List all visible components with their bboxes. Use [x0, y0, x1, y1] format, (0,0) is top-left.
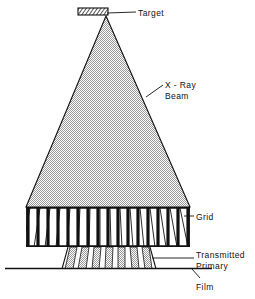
grid-assembly: [23, 207, 190, 247]
leader-xray: [146, 85, 163, 97]
label-grid: Grid: [196, 212, 214, 223]
label-transmitted-primary: Transmitted Primary: [196, 250, 245, 271]
label-film: Film: [196, 282, 214, 293]
x-ray-beam-shape: [26, 16, 190, 207]
label-xray-beam: X - Ray Beam: [165, 80, 196, 101]
target-block: [78, 8, 108, 15]
diagram-canvas: Target X - Ray Beam Grid Transmitted Pri…: [0, 0, 255, 299]
transmitted-primary-shape: [62, 247, 156, 269]
label-transmitted-line2: Primary: [196, 261, 228, 271]
label-transmitted-line1: Transmitted: [196, 250, 245, 260]
label-target: Target: [138, 8, 164, 19]
label-xray-beam-line1: X - Ray: [165, 80, 196, 90]
label-xray-beam-line2: Beam: [165, 91, 189, 101]
leader-target: [107, 12, 136, 13]
